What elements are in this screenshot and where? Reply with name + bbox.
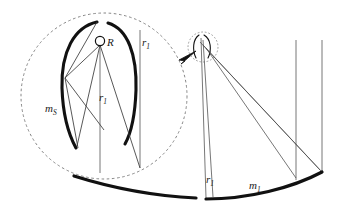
- aperture-radius-label: R: [106, 36, 114, 48]
- ray-diagram-svg: R r1 r1 mS: [0, 0, 341, 215]
- figure-root: R r1 r1 mS: [0, 0, 341, 215]
- aperture-stop-circle: [95, 36, 104, 45]
